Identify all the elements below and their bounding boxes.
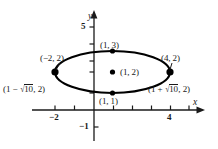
label-focus-left-prefix: (1 −: [3, 84, 20, 94]
x-axis-ticks: [55, 106, 189, 111]
radical-sign-left: √: [20, 85, 24, 94]
ellipse-coordinate-figure: y x 5 −1 −2 4 (−2, 2) (1, 3) (4, 2) (1, …: [0, 0, 218, 149]
label-vertex-right: (4, 2): [161, 54, 180, 63]
radical-sign-right: √: [165, 85, 169, 94]
x-tick-label-neg2: −2: [49, 113, 59, 122]
label-focus-left-suffix: , 2): [33, 84, 45, 94]
label-focus-right: (1 + √10, 2): [148, 84, 190, 94]
label-focus-right-suffix: , 2): [178, 84, 190, 94]
label-focus-right-prefix: (1 +: [148, 84, 165, 94]
y-axis-label: y: [88, 12, 92, 22]
point-covertex-bottom: [110, 90, 115, 95]
radicand-left: 10: [24, 84, 33, 94]
y-tick-label-neg1: −1: [79, 122, 89, 131]
leader-line-vertex-right: [170, 63, 172, 70]
label-center: (1, 2): [120, 68, 139, 77]
x-axis-label: x: [193, 98, 197, 108]
label-focus-left: (1 − √10, 2): [3, 84, 45, 94]
y-tick-label-5: 5: [81, 22, 86, 31]
radical-left: √10: [20, 84, 34, 94]
point-vertex-left: [51, 68, 58, 75]
radicand-right: 10: [169, 84, 178, 94]
radical-right: √10: [165, 84, 179, 94]
label-covertex-top: (1, 3): [100, 41, 119, 50]
x-tick-label-4: 4: [167, 113, 172, 122]
label-covertex-bottom: (1, 1): [99, 97, 118, 106]
point-center: [110, 69, 115, 74]
plot-canvas: [0, 0, 218, 149]
y-axis: [91, 10, 98, 141]
label-vertex-left: (−2, 2): [40, 54, 64, 63]
